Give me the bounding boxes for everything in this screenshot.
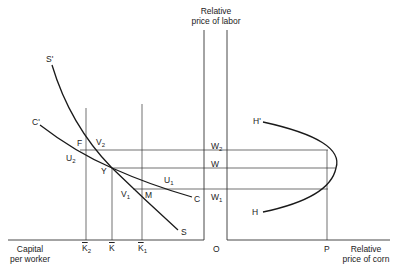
w-base: W <box>211 159 219 169</box>
s-prime-label: S' <box>46 54 53 64</box>
h-prime-label: H' <box>253 116 261 126</box>
y-axis-label: Relative price of labor <box>184 6 248 26</box>
u2-sub: 2 <box>72 158 75 164</box>
point-u1-label: U1 <box>164 175 173 188</box>
w-label: W <box>211 159 219 169</box>
w2-label: W2 <box>211 141 222 154</box>
u1-sub: 1 <box>170 180 173 186</box>
point-v2-label: V2 <box>96 137 105 150</box>
w1-label: W1 <box>211 192 222 205</box>
k2-sub: 2 <box>88 248 91 254</box>
point-u2-label: U2 <box>66 153 75 166</box>
point-y-label: Y <box>101 166 107 176</box>
kbar-base: K <box>109 243 115 253</box>
corn-price-axis-label-line1: Relative <box>338 244 394 254</box>
capital-axis-label-line1: Capital <box>6 244 54 254</box>
w1-base: W <box>211 192 219 202</box>
c-label: C <box>194 194 200 204</box>
corn-price-axis-label-line2: price of corn <box>338 254 394 264</box>
diagram-canvas <box>0 0 395 264</box>
w2-base: W <box>211 141 219 151</box>
p-tick-label: P <box>324 244 330 254</box>
k2-tick-label: K2 <box>82 243 91 256</box>
h-curve <box>263 122 337 212</box>
h-label: H <box>252 207 258 217</box>
w1-sub: 1 <box>219 197 222 203</box>
capital-axis-label: Capital per worker <box>6 244 54 264</box>
point-v1-label: V1 <box>121 189 130 202</box>
v2-sub: 2 <box>102 142 105 148</box>
y-axis-label-line2: price of labor <box>184 16 248 26</box>
s-label: S <box>181 227 187 237</box>
origin-label: O <box>213 244 220 254</box>
kbar-tick-label: K <box>109 243 115 253</box>
v1-sub: 1 <box>127 194 130 200</box>
point-f-label: F <box>77 138 82 148</box>
capital-axis-label-line2: per worker <box>6 254 54 264</box>
k1-sub: 1 <box>144 248 147 254</box>
corn-price-axis-label: Relative price of corn <box>338 244 394 264</box>
point-m-label: M <box>145 190 152 200</box>
y-axis-label-line1: Relative <box>184 6 248 16</box>
s-curve <box>52 65 178 230</box>
k1-tick-label: K1 <box>138 243 147 256</box>
c-prime-label: C' <box>32 117 40 127</box>
w2-sub: 2 <box>219 146 222 152</box>
